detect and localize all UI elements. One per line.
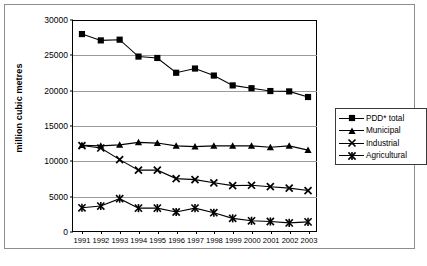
asterisk-data-point — [348, 152, 355, 160]
legend-item-label: Agricultural — [366, 151, 407, 160]
x-tick-label: 1999 — [225, 236, 242, 245]
x-tick-label: 1997 — [187, 236, 204, 245]
x-tick-mark — [290, 231, 291, 234]
x-tick-mark — [214, 231, 215, 234]
plot-area: 050001000015000200002500030000 199119921… — [72, 20, 317, 232]
square-data-point — [79, 31, 85, 37]
x-tick-label: 1996 — [168, 236, 185, 245]
y-tick-label: 25000 — [44, 50, 68, 60]
x-tick-mark — [158, 231, 159, 234]
legend-item-pdd-total[interactable]: PDD* total — [339, 112, 424, 125]
screenshot-root: million cubic metres 0500010000150002000… — [0, 0, 427, 266]
legend-item-industrial[interactable]: Industrial — [339, 137, 424, 150]
asterisk-data-point — [116, 195, 123, 203]
x-tick-label: 1991 — [74, 236, 91, 245]
legend-item-label: PDD* total — [366, 114, 404, 123]
x-tick-label: 2001 — [263, 236, 280, 245]
triangle-data-point — [348, 127, 355, 133]
x-marker — [339, 137, 364, 149]
x-tick-mark — [309, 231, 310, 234]
x-tick-mark — [252, 231, 253, 234]
x-tick-label: 1998 — [206, 236, 223, 245]
legend-item-label: Municipal — [366, 126, 401, 135]
x-tick-mark — [82, 231, 83, 234]
y-tick-label: 0 — [63, 227, 68, 237]
series-layer — [73, 20, 317, 231]
x-tick-mark — [271, 231, 272, 234]
square-data-point — [286, 88, 292, 94]
x-data-point — [116, 156, 123, 163]
legend-item-agricultural[interactable]: Agricultural — [339, 150, 424, 163]
chart-legend: PDD* totalMunicipalIndustrialAgricultura… — [335, 108, 427, 165]
series-agricultural — [78, 195, 311, 227]
series-municipal — [78, 139, 311, 153]
square-data-point — [154, 55, 160, 61]
square-data-point — [305, 94, 311, 100]
y-tick-label: 30000 — [44, 15, 68, 25]
line-chart-figure: million cubic metres 0500010000150002000… — [5, 5, 414, 248]
square-data-point — [248, 85, 254, 91]
square-data-point — [135, 53, 141, 59]
square-data-point — [192, 65, 198, 71]
y-axis-title: million cubic metres — [14, 48, 28, 168]
x-tick-mark — [233, 231, 234, 234]
y-tick-mark — [70, 232, 73, 233]
series-pdd-total — [79, 31, 311, 100]
y-tick-label: 5000 — [49, 192, 68, 202]
series-industrial — [78, 142, 311, 194]
x-tick-label: 1995 — [149, 236, 166, 245]
asterisk-data-point — [210, 209, 217, 217]
legend-item-municipal[interactable]: Municipal — [339, 125, 424, 138]
square-data-point — [98, 37, 104, 43]
square-data-point — [230, 82, 236, 88]
x-tick-label: 2000 — [244, 236, 261, 245]
square-data-point — [211, 72, 217, 78]
square-data-point — [267, 88, 273, 94]
triangle-marker — [339, 125, 364, 137]
square-data-point — [173, 70, 179, 76]
x-tick-mark — [120, 231, 121, 234]
x-tick-label: 1994 — [130, 236, 147, 245]
y-tick-label: 10000 — [44, 156, 68, 166]
legend-item-label: Industrial — [366, 139, 399, 148]
x-tick-mark — [101, 231, 102, 234]
x-tick-mark — [139, 231, 140, 234]
square-marker — [339, 112, 364, 124]
y-tick-label: 20000 — [44, 86, 68, 96]
x-tick-mark — [177, 231, 178, 234]
x-tick-label: 2003 — [301, 236, 318, 245]
x-tick-label: 1992 — [92, 236, 109, 245]
square-data-point — [348, 115, 354, 121]
asterisk-marker — [339, 150, 364, 162]
x-data-point — [348, 140, 355, 147]
y-tick-label: 15000 — [44, 121, 68, 131]
x-tick-mark — [196, 231, 197, 234]
square-data-point — [117, 37, 123, 43]
x-tick-label: 2002 — [282, 236, 299, 245]
x-tick-label: 1993 — [111, 236, 128, 245]
